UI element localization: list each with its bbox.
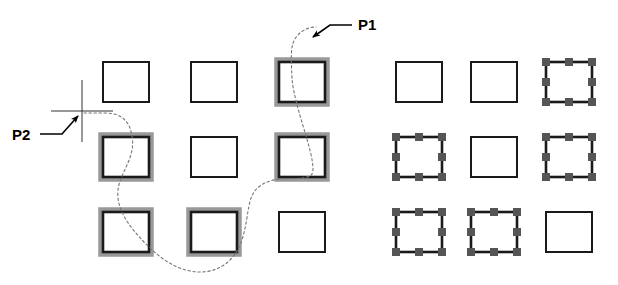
label-p1: P1 <box>358 16 376 33</box>
left-square-r2-c2[interactable] <box>279 212 325 252</box>
left-square-r0-c1[interactable] <box>191 62 237 102</box>
left-square-r0-c2[interactable] <box>277 60 327 104</box>
left-square-r2-c0[interactable] <box>101 210 151 254</box>
right-square-r1-c0[interactable] <box>393 134 446 181</box>
right-group-after-selection <box>393 59 596 256</box>
right-square-r2-c2[interactable] <box>546 212 592 252</box>
right-square-r1-c2[interactable] <box>543 134 596 181</box>
left-square-r1-c1[interactable] <box>191 137 237 177</box>
right-square-r2-c0[interactable] <box>393 209 446 256</box>
p1-leader-line <box>313 25 352 37</box>
left-square-r1-c2[interactable] <box>277 135 327 179</box>
right-square-r1-c1[interactable] <box>471 137 517 177</box>
right-square-r0-c0[interactable] <box>396 62 442 102</box>
right-square-r0-c1[interactable] <box>471 62 517 102</box>
left-square-r0-c0[interactable] <box>103 62 149 102</box>
left-group-before-selection <box>101 60 327 254</box>
cad-lasso-selection-diagram: P1 P2 <box>0 0 618 285</box>
p2-leader-line <box>40 116 78 134</box>
label-p2: P2 <box>12 126 30 143</box>
diagram-canvas: P1 P2 <box>0 0 618 285</box>
left-square-r2-c1[interactable] <box>189 210 239 254</box>
left-square-r1-c0[interactable] <box>101 135 151 179</box>
right-square-r2-c1[interactable] <box>468 209 521 256</box>
right-square-r0-c2[interactable] <box>543 59 596 106</box>
